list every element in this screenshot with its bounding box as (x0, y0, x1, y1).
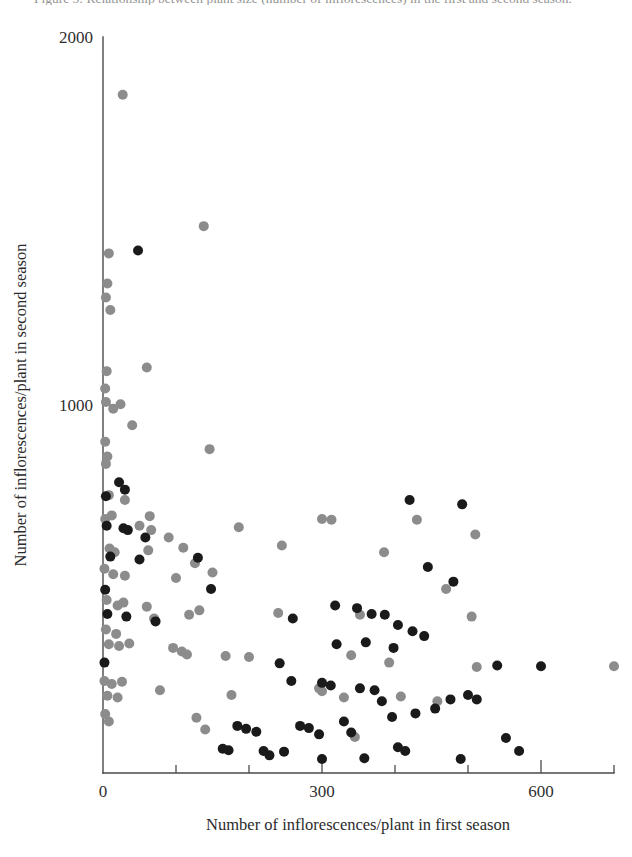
scatter-point (457, 499, 467, 509)
scatter-point (393, 620, 403, 630)
scatter-point (102, 279, 112, 289)
scatter-point (124, 638, 134, 648)
y-tick-label: 2000 (59, 28, 93, 47)
scatter-point (317, 514, 327, 524)
scatter-point (120, 571, 130, 581)
scatter-point (145, 511, 155, 521)
scatter-point (405, 495, 415, 505)
scatter-point (472, 662, 482, 672)
x-tick-label: 300 (309, 782, 335, 801)
scatter-point (355, 683, 365, 693)
scatter-point (441, 584, 451, 594)
scatter-point (389, 643, 399, 653)
scatter-point (244, 652, 254, 662)
scatter-point (200, 725, 210, 735)
scatter-point (102, 595, 112, 605)
scatter-point (191, 713, 201, 723)
scatter-point (467, 612, 477, 622)
scatter-point (224, 745, 234, 755)
scatter-point (221, 651, 231, 661)
scatter-point (380, 610, 390, 620)
scatter-point (108, 569, 118, 579)
scatter-point (102, 691, 112, 701)
scatter-series-black (99, 245, 546, 764)
scatter-point (326, 680, 336, 690)
scatter-point (99, 658, 109, 668)
scatter-point (155, 685, 165, 695)
scatter-point (171, 573, 181, 583)
scatter-point (133, 245, 143, 255)
y-axis-title: Number of inflorescences/plant in second… (11, 243, 30, 566)
scatter-plot: 0300600 10002000 Number of inflorescence… (0, 0, 632, 857)
scatter-point (120, 485, 130, 495)
scatter-point (117, 677, 127, 687)
x-tick-label: 600 (528, 782, 554, 801)
scatter-point (120, 495, 130, 505)
scatter-point (208, 567, 218, 577)
scatter-point (104, 639, 114, 649)
scatter-point (279, 747, 289, 757)
scatter-point (352, 603, 362, 613)
scatter-point (113, 601, 123, 611)
axis-spines (103, 37, 614, 773)
scatter-point (295, 721, 305, 731)
scatter-point (104, 716, 114, 726)
scatter-point (194, 605, 204, 615)
scatter-point (123, 525, 133, 535)
scatter-point (286, 676, 296, 686)
scatter-point (326, 515, 336, 525)
scatter-point (142, 362, 152, 372)
scatter-point (379, 547, 389, 557)
scatter-point (339, 716, 349, 726)
scatter-point (423, 562, 433, 572)
scatter-point (164, 532, 174, 542)
scatter-point (101, 624, 111, 634)
scatter-point (346, 650, 356, 660)
scatter-point (430, 704, 440, 714)
scatter-point (384, 658, 394, 668)
scatter-point (317, 678, 327, 688)
scatter-point (251, 727, 261, 737)
scatter-point (445, 694, 455, 704)
scatter-point (105, 552, 115, 562)
scatter-point (135, 521, 145, 531)
scatter-point (100, 383, 110, 393)
scatter-point (226, 690, 236, 700)
scatter-point (273, 608, 283, 618)
scatter-point (275, 658, 285, 668)
scatter-point (101, 459, 111, 469)
x-axis-major-ticks (322, 760, 541, 773)
y-tick-label: 1000 (59, 396, 93, 415)
y-axis-tick-labels: 10002000 (59, 28, 93, 415)
scatter-point (470, 530, 480, 540)
scatter-point (143, 545, 153, 555)
scatter-point (359, 753, 369, 763)
scatter-point (140, 532, 150, 542)
scatter-point (367, 609, 377, 619)
scatter-point (199, 221, 209, 231)
x-axis-title: Number of inflorescences/plant in first … (206, 815, 510, 834)
scatter-point (277, 541, 287, 551)
scatter-point (104, 248, 114, 258)
scatter-point (184, 610, 194, 620)
scatter-point (121, 612, 131, 622)
scatter-point (609, 661, 619, 671)
scatter-point (361, 637, 371, 647)
figure-container: Figure 3: Relationship between plant siz… (0, 0, 632, 857)
scatter-point (410, 708, 420, 718)
scatter-series-grey (99, 90, 619, 742)
scatter-point (102, 521, 112, 531)
scatter-point (514, 746, 524, 756)
scatter-point (232, 721, 242, 731)
scatter-point (419, 631, 429, 641)
scatter-point (105, 305, 115, 315)
scatter-point (127, 420, 137, 430)
scatter-point (317, 754, 327, 764)
scatter-point (304, 723, 314, 733)
scatter-point (492, 661, 502, 671)
scatter-point (346, 728, 356, 738)
scatter-point (102, 609, 112, 619)
scatter-point (114, 641, 124, 651)
scatter-point (111, 629, 121, 639)
scatter-point (332, 639, 342, 649)
